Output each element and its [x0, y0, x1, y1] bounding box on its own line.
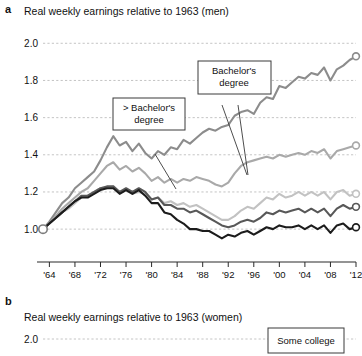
xtick-label-'64: '64	[43, 269, 55, 280]
callout-leader-gt-bachelors	[155, 154, 176, 189]
series-line-2	[43, 186, 356, 229]
xtick-label-'96: '96	[248, 269, 260, 280]
series-endpoint-3	[353, 203, 360, 210]
xtick-label-'68: '68	[69, 269, 81, 280]
series-endpoint-2	[353, 190, 360, 197]
series-endpoint-1	[353, 142, 360, 149]
chart-panel-b: 2.0 Some college	[0, 325, 362, 356]
xtick-label-'08: '08	[324, 269, 336, 280]
xtick-label-'88: '88	[196, 269, 208, 280]
series-line-1	[43, 146, 356, 230]
ytick-label-1.0: 1.0	[24, 224, 38, 235]
xtick-label-'04: '04	[299, 269, 311, 280]
panel-b-letter: b	[5, 295, 12, 307]
xtick-label-'80: '80	[145, 269, 157, 280]
ytick-label-1.6: 1.6	[24, 112, 38, 123]
ytick-label-b-2.0: 2.0	[24, 334, 38, 345]
axis-group-a	[37, 262, 356, 267]
callout-text-gt-bachelors-line2: degree	[134, 114, 164, 125]
chart-panel-a: 1.01.21.41.61.82.0'64'68'72'76'80'84'88'…	[0, 22, 362, 284]
xtick-label-'72: '72	[94, 269, 106, 280]
callout-text-gt-bachelors-line1: > Bachelor's	[123, 102, 175, 113]
panel-a-letter: a	[5, 3, 11, 15]
callout-text-some-college: Some college	[277, 335, 335, 346]
axis-labels-a: 1.01.21.41.61.82.0'64'68'72'76'80'84'88'…	[24, 38, 362, 284]
xtick-label-'84: '84	[171, 269, 183, 280]
xtick-label-'76: '76	[120, 269, 132, 280]
panel-a-title: Real weekly earnings relative to 1963 (m…	[24, 5, 229, 17]
series-endpoint-4	[353, 224, 360, 231]
ytick-label-1.8: 1.8	[24, 75, 38, 86]
chart-a-svg: 1.01.21.41.61.82.0'64'68'72'76'80'84'88'…	[0, 22, 362, 284]
series-endpoint-0	[353, 53, 360, 60]
panel-b-title: Real weekly earnings relative to 1963 (w…	[24, 311, 242, 323]
callout-text-bachelors-line1: Bachelor's	[212, 65, 256, 76]
xtick-label-'92: '92	[222, 269, 234, 280]
xtick-label-'12: '12	[350, 269, 362, 280]
chart-b-svg: 2.0 Some college	[0, 325, 362, 356]
ytick-label-2.0: 2.0	[24, 38, 38, 49]
ytick-label-1.4: 1.4	[24, 149, 38, 160]
callout-text-bachelors-line2: degree	[219, 77, 249, 88]
ytick-label-1.2: 1.2	[24, 186, 38, 197]
series-start-marker	[39, 225, 47, 233]
xtick-label-'00: '00	[273, 269, 285, 280]
